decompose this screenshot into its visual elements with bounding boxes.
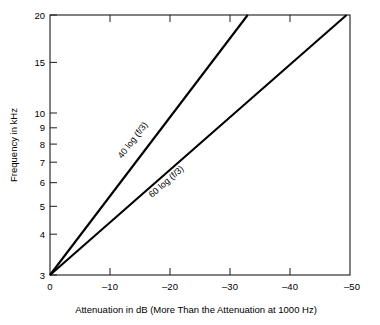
curve-annotations: 40 log (f/3) 60 log (f/3) <box>116 120 186 200</box>
series-40log-line <box>50 15 248 275</box>
y-tick-label: 10 <box>34 108 45 119</box>
x-tick-label: –50 <box>344 281 360 292</box>
y-tick-label: 7 <box>40 157 45 168</box>
y-axis-tick-labels: 20 15 10 9 8 7 6 5 4 3 <box>34 10 45 281</box>
x-tick-label: –40 <box>282 281 298 292</box>
x-tick-label: 0 <box>47 281 52 292</box>
y-tick-label: 5 <box>40 201 45 212</box>
y-axis-title: Frequency in kHz <box>8 108 19 182</box>
chart-figure: 20 15 10 9 8 7 6 5 4 3 0 –10 <box>0 0 380 325</box>
y-tick-label: 15 <box>34 57 45 68</box>
y-tick-label: 8 <box>40 139 45 150</box>
y-tick-label: 20 <box>34 10 45 21</box>
x-tick-label: –20 <box>162 281 178 292</box>
x-tick-label: –10 <box>102 281 118 292</box>
series-60log-line <box>50 15 347 275</box>
x-tick-label: –30 <box>222 281 238 292</box>
x-axis-tick-labels: 0 –10 –20 –30 –40 –50 <box>47 281 360 292</box>
attenuation-vs-frequency-chart: 20 15 10 9 8 7 6 5 4 3 0 –10 <box>0 0 380 325</box>
data-series <box>50 15 347 275</box>
y-tick-label: 6 <box>40 177 45 188</box>
y-axis-ticks <box>50 15 57 275</box>
x-axis-ticks-top <box>110 15 290 22</box>
annotation-40log: 40 log (f/3) <box>116 120 150 160</box>
x-axis-ticks-bottom <box>110 268 290 275</box>
y-tick-label: 9 <box>40 122 45 133</box>
x-axis-title: Attenuation in dB (More Than the Attenua… <box>75 304 317 315</box>
y-tick-label: 3 <box>40 270 45 281</box>
y-tick-label: 4 <box>40 229 45 240</box>
annotation-60log: 60 log (f/3) <box>147 164 186 200</box>
